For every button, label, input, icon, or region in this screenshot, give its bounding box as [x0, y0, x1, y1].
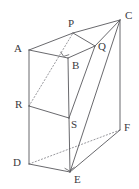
vertex-label-Q: Q: [98, 41, 106, 52]
edge-A-P: [29, 33, 73, 50]
vertex-label-P: P: [68, 18, 74, 29]
edge-P-Q: [73, 33, 95, 46]
vertex-label-F: F: [124, 122, 130, 133]
vertex-label-R: R: [15, 99, 22, 110]
vertex-label-A: A: [14, 43, 22, 54]
right-angle-mark-B: [61, 52, 70, 57]
vertex-label-E: E: [74, 174, 81, 185]
edge-R-S: [29, 106, 69, 118]
vertex-label-D: D: [13, 157, 21, 168]
vertex-label-C: C: [125, 10, 132, 21]
vertex-label-S: S: [71, 119, 77, 130]
edge-B-S: [68, 58, 69, 118]
edge-P-C: [73, 20, 120, 33]
edge-E-F: [70, 130, 120, 172]
edge-C-E: [70, 20, 120, 172]
edge-D-E: [29, 164, 70, 172]
edge-S-E: [69, 118, 70, 172]
vertex-label-B: B: [72, 60, 79, 71]
hidden-edge-R-P: [29, 33, 73, 106]
geometry-figure: A P C Q B R S F D E: [0, 0, 139, 189]
